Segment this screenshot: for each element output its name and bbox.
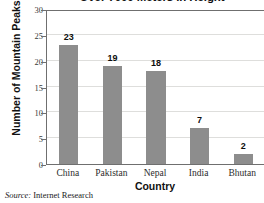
y-tick-mark xyxy=(41,36,46,37)
y-tick-label: 5 xyxy=(17,135,43,144)
x-tick-label: Bhutan xyxy=(220,168,264,178)
bar-value-label: 2 xyxy=(220,142,264,151)
x-tick-label: Nepal xyxy=(133,168,177,178)
y-axis-title: Number of Mountain Peaks xyxy=(10,0,22,148)
y-tick-mark xyxy=(41,62,46,63)
bar[interactable] xyxy=(234,154,253,164)
bar[interactable] xyxy=(190,128,209,164)
bar-group[interactable]: 23 xyxy=(59,11,78,164)
bar-group[interactable]: 18 xyxy=(146,11,165,164)
y-tick-mark xyxy=(41,139,46,140)
bar-group[interactable]: 2 xyxy=(234,11,253,164)
bar[interactable] xyxy=(103,66,122,164)
plot-area: 23191872 xyxy=(46,10,264,165)
y-tick-mark xyxy=(41,88,46,89)
y-tick-mark xyxy=(41,113,46,114)
y-tick-label: 0 xyxy=(17,161,43,170)
chart-title: Over 7000 Meters in Height xyxy=(40,0,264,3)
x-tick-label: India xyxy=(177,168,221,178)
y-tick-label: 15 xyxy=(17,84,43,93)
y-tick-mark xyxy=(41,10,46,11)
bar-value-label: 7 xyxy=(176,116,223,125)
bar-value-label: 18 xyxy=(132,59,179,68)
y-tick-mark xyxy=(41,165,46,166)
source-label: Source: xyxy=(5,190,31,200)
bar-value-label: 23 xyxy=(45,33,92,42)
source-text: Internet Research xyxy=(33,190,93,200)
y-tick-label: 20 xyxy=(17,58,43,67)
y-tick-label: 10 xyxy=(17,109,43,118)
bar[interactable] xyxy=(146,71,165,164)
bar-group[interactable]: 7 xyxy=(190,11,209,164)
x-tick-label: Pakistan xyxy=(90,168,134,178)
bar-series: 23191872 xyxy=(47,11,264,164)
y-tick-label: 30 xyxy=(17,6,43,15)
y-tick-label: 25 xyxy=(17,32,43,41)
bar-chart-figure: Over 7000 Meters in Height Number of Mou… xyxy=(0,0,264,203)
bar-value-label: 19 xyxy=(89,54,136,63)
x-tick-label: China xyxy=(46,168,90,178)
bar[interactable] xyxy=(59,45,78,164)
source-note: Source: Internet Research xyxy=(5,190,93,200)
bar-group[interactable]: 19 xyxy=(103,11,122,164)
